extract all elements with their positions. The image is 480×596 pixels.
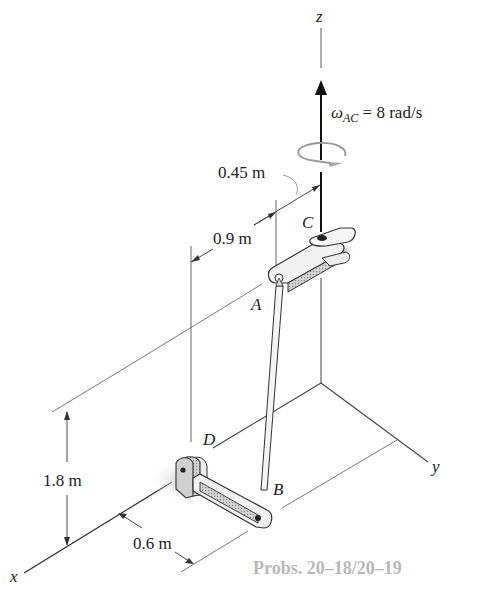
z-axis: z: [315, 7, 323, 68]
omega-label: ωAC = 8 rad/s: [331, 103, 422, 125]
dimension-0-6m: 0.6 m: [118, 513, 248, 572]
arrow-up-icon: [315, 80, 327, 95]
svg-text:B: B: [273, 480, 284, 499]
angular-velocity-vector: ωAC = 8 rad/s: [315, 80, 422, 160]
y-axis-label: y: [430, 457, 440, 476]
svg-text:0.9 m: 0.9 m: [213, 229, 252, 248]
y-axis: y: [321, 383, 440, 476]
z-axis-label: z: [315, 7, 323, 26]
svg-text:C: C: [302, 213, 314, 232]
svg-text:0.45 m: 0.45 m: [218, 163, 265, 182]
x-axis-label: x: [9, 567, 18, 586]
svg-text:1.8 m: 1.8 m: [43, 471, 82, 490]
link-ac: C: [269, 213, 356, 292]
pin-c: [317, 235, 327, 241]
figure-caption: Probs. 20–18/20–19: [253, 558, 402, 578]
svg-text:D: D: [202, 430, 216, 449]
dimension-0-9m: 0.9 m: [191, 200, 276, 268]
mechanism-diagram: z ωAC = 8 rad/s y x 1.8 m: [0, 0, 480, 596]
svg-text:0.6 m: 0.6 m: [133, 534, 172, 553]
svg-text:A: A: [250, 295, 262, 314]
rod-ab: A: [250, 278, 283, 490]
